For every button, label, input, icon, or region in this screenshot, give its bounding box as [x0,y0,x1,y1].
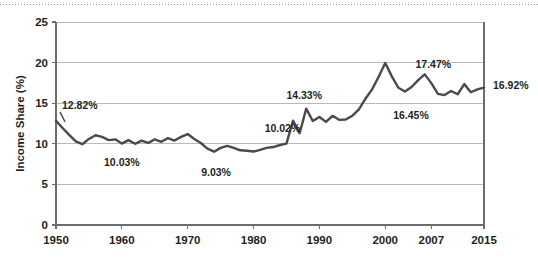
data-point-annotation: 16.92% [493,79,529,91]
annotation-leader-line [60,112,65,122]
x-axis-tick-label: 1970 [175,234,201,246]
x-axis-tick-label: 2007 [419,234,445,246]
data-point-annotation: 9.03% [201,166,231,178]
data-point-annotation: 16.45% [393,109,429,121]
y-axis-tick-label: 10 [35,138,48,150]
data-point-annotation: 17.47% [416,58,452,70]
x-axis-tick-label: 1960 [109,234,135,246]
y-axis-title: Income Share (%) [14,75,26,172]
data-series-line [56,63,484,152]
y-axis-tick-label: 15 [35,97,48,109]
y-axis-tick-label: 5 [42,178,49,190]
y-axis-tick-label: 25 [35,16,48,28]
x-axis-tick-label: 1990 [307,234,333,246]
x-axis-tick-label: 1980 [241,234,267,246]
x-axis-tick-label: 2015 [471,234,497,246]
x-axis-tick-label: 1950 [43,234,69,246]
y-axis-tick-label: 20 [35,57,48,69]
y-axis-tick-label: 0 [42,219,48,231]
x-axis-tick-label: 2000 [372,234,398,246]
data-point-annotation: 14.33% [286,89,322,101]
data-point-annotation: 10.02% [265,122,301,134]
income-share-line-chart: 0510152025195019601970198019902000200720… [0,0,538,259]
data-point-annotation: 12.82% [62,99,98,111]
chart-canvas: 0510152025195019601970198019902000200720… [0,0,538,259]
data-point-annotation: 10.03% [104,156,140,168]
